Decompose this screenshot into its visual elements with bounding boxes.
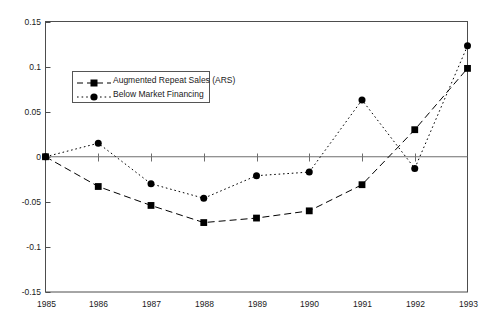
chart-figure: 0.150.10.050-0.05-0.1-0.15 1985198619871… [0, 0, 484, 324]
data-point-marker [95, 140, 102, 147]
legend-swatch-dotted-circle [77, 89, 111, 101]
x-tick-label: 1993 [444, 300, 484, 309]
chart-legend: Augmented Repeat Sales (ARS) Below Marke… [72, 71, 210, 103]
data-point-marker [148, 202, 155, 209]
x-tick-label: 1992 [391, 300, 441, 309]
y-tick-label: -0.1 [0, 243, 41, 252]
x-tick-label: 1988 [180, 300, 230, 309]
y-tick-label: 0.1 [0, 63, 41, 72]
data-point-marker [464, 65, 471, 72]
y-tick-label: 0.15 [0, 18, 41, 27]
series-bmf [42, 42, 471, 201]
data-point-marker [411, 126, 418, 133]
x-tick-label: 1990 [285, 300, 335, 309]
legend-item-bmf: Below Market Financing [73, 88, 209, 102]
y-tick-label: -0.05 [0, 198, 41, 207]
x-tick-label: 1985 [22, 300, 72, 309]
data-point-marker [200, 195, 207, 202]
data-point-marker [95, 183, 102, 190]
x-tick-label: 1989 [233, 300, 283, 309]
data-point-marker [200, 219, 207, 226]
data-point-marker [148, 180, 155, 187]
data-point-marker [253, 215, 260, 222]
data-point-marker [359, 96, 366, 103]
data-point-marker [464, 42, 471, 49]
chart-plot-area [0, 0, 484, 324]
data-point-marker [253, 172, 260, 179]
data-point-marker [306, 169, 313, 176]
x-tick-label: 1987 [127, 300, 177, 309]
legend-item-ars: Augmented Repeat Sales (ARS) [73, 74, 209, 88]
data-point-marker [42, 153, 49, 160]
y-tick-label: 0 [0, 153, 41, 162]
data-point-marker [359, 181, 366, 188]
x-tick-label: 1991 [338, 300, 388, 309]
x-tick-label: 1986 [74, 300, 124, 309]
legend-swatch-dashed-square [77, 75, 111, 87]
data-point-marker [306, 207, 313, 214]
legend-label-bmf: Below Market Financing [113, 90, 204, 99]
legend-label-ars: Augmented Repeat Sales (ARS) [113, 76, 235, 85]
y-tick-label: -0.15 [0, 288, 41, 297]
data-point-marker [411, 165, 418, 172]
y-tick-label: 0.05 [0, 108, 41, 117]
x-axis-ticks [99, 154, 416, 162]
